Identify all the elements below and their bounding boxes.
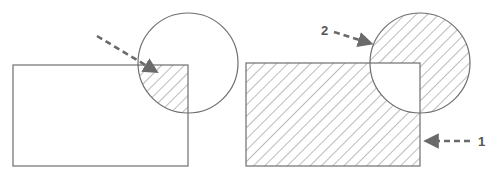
arrow-1-label: 1 <box>478 134 485 149</box>
arrow-2-label: 2 <box>321 23 328 38</box>
diagram-canvas <box>0 0 494 179</box>
right-panel <box>0 0 494 179</box>
venn-diagram-figure: 2 1 <box>0 0 494 179</box>
